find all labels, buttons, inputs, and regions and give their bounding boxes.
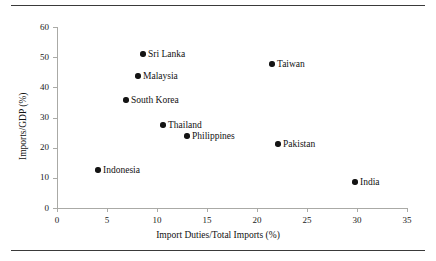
data-point-label: Indonesia <box>103 165 140 175</box>
x-tick-mark <box>107 208 108 212</box>
x-tick-label: 5 <box>95 216 119 225</box>
data-point-label: South Korea <box>131 95 179 105</box>
x-tick-mark <box>157 208 158 212</box>
y-tick-label: 40 <box>27 83 49 92</box>
data-point-label: Pakistan <box>283 139 315 149</box>
x-tick-label: 25 <box>295 216 319 225</box>
x-tick-label: 0 <box>45 216 69 225</box>
data-point[interactable] <box>352 179 357 184</box>
y-tick-label: 0 <box>27 204 49 213</box>
x-axis-line <box>57 208 407 209</box>
data-point[interactable] <box>184 133 189 138</box>
y-tick-mark <box>53 27 57 28</box>
y-axis-line <box>57 27 58 208</box>
data-point[interactable] <box>135 73 140 78</box>
data-point[interactable] <box>95 167 100 172</box>
data-point[interactable] <box>275 141 280 146</box>
x-tick-mark <box>257 208 258 212</box>
x-tick-label: 30 <box>345 216 369 225</box>
x-tick-label: 10 <box>145 216 169 225</box>
data-point[interactable] <box>269 61 274 66</box>
y-tick-label: 20 <box>27 143 49 152</box>
x-tick-mark <box>357 208 358 212</box>
data-point-label: Philippines <box>192 131 235 141</box>
data-point-label: Malaysia <box>143 71 178 81</box>
x-tick-mark <box>307 208 308 212</box>
y-tick-label: 50 <box>27 53 49 62</box>
y-tick-mark <box>53 148 57 149</box>
x-tick-label: 20 <box>245 216 269 225</box>
data-point-label: Thailand <box>168 120 202 130</box>
data-point-label: Sri Lanka <box>148 49 185 59</box>
scatter-chart: 0102030405060 05101520253035 Imports/GDP… <box>0 0 436 261</box>
y-tick-mark <box>53 57 57 58</box>
data-point[interactable] <box>160 122 165 127</box>
y-tick-mark <box>53 118 57 119</box>
data-point-label: India <box>360 177 380 187</box>
x-tick-label: 15 <box>195 216 219 225</box>
x-axis-title: Import Duties/Total Imports (%) <box>0 230 436 241</box>
data-point-label: Taiwan <box>277 59 305 69</box>
y-tick-mark <box>53 178 57 179</box>
y-tick-mark <box>53 87 57 88</box>
y-tick-label: 60 <box>27 23 49 32</box>
data-point[interactable] <box>123 97 128 102</box>
data-point[interactable] <box>140 51 145 56</box>
x-tick-mark <box>57 208 58 212</box>
y-axis-title: Imports/GDP (%) <box>18 93 29 160</box>
x-tick-mark <box>407 208 408 212</box>
y-tick-label: 30 <box>27 113 49 122</box>
x-tick-label: 35 <box>395 216 419 225</box>
y-tick-label: 10 <box>27 173 49 182</box>
x-tick-mark <box>207 208 208 212</box>
